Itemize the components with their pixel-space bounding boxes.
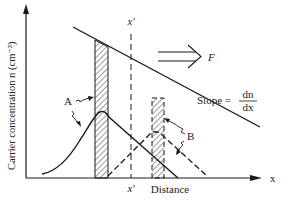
- x-axis-label: Distance: [151, 183, 190, 195]
- diffusion-diagram: Carrier concentration n (cm⁻³) Distance …: [0, 0, 288, 204]
- x-axis-symbol: x: [270, 172, 276, 184]
- hatched-strip-a: [95, 40, 108, 178]
- pointer-b-strip: [169, 121, 185, 134]
- pointer-a-strip-arrow-icon: [88, 96, 94, 101]
- x-axis-arrow-icon: [250, 175, 262, 181]
- slope-label: Slope =: [197, 94, 231, 106]
- force-label: F: [207, 51, 215, 63]
- slope-denominator: dx: [243, 101, 255, 113]
- hatched-strip-b: [152, 98, 164, 178]
- x-prime-bottom-label: x': [126, 182, 135, 194]
- pointer-a-strip: [76, 98, 89, 102]
- slope-numerator: dn: [243, 88, 255, 100]
- force-arrow-icon: [158, 45, 201, 68]
- curve-a-label: A: [64, 95, 72, 107]
- pointer-b-curve: [178, 141, 184, 152]
- y-axis: [23, 4, 29, 178]
- y-axis-label: Carrier concentration n (cm⁻³): [6, 41, 18, 170]
- pointer-b-strip-arrow-icon: [164, 118, 170, 123]
- y-axis-arrow-icon: [23, 4, 29, 14]
- curve-b-label: B: [187, 130, 194, 142]
- pointer-a-curve-arrow-icon: [76, 121, 81, 127]
- x-axis: [26, 175, 262, 181]
- x-prime-top-label: x': [126, 15, 135, 27]
- pointer-a-curve: [72, 111, 78, 123]
